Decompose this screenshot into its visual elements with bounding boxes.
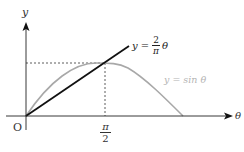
theta-axis-label: θ	[235, 110, 241, 121]
line-label-frac-den: π	[153, 46, 159, 56]
tick-numerator: π	[99, 121, 112, 132]
tick-denominator: 2	[99, 133, 112, 145]
linear-line	[26, 46, 129, 116]
tick-label-pi-over-2: π 2	[99, 121, 112, 145]
sine-curve	[26, 63, 183, 116]
line-label-lhs: y	[132, 40, 138, 51]
line-equation-label: y = 2 π θ	[132, 33, 168, 57]
line-label-frac-num: 2	[153, 35, 159, 45]
y-axis-label: y	[22, 6, 28, 19]
diagram-canvas	[0, 0, 244, 152]
line-label-eq: =	[141, 40, 149, 51]
line-label-var: θ	[162, 40, 168, 51]
curve-equation-label: y = sin θ	[164, 74, 206, 85]
origin-label: O	[13, 121, 22, 134]
line-label-fraction: 2 π	[152, 35, 160, 56]
